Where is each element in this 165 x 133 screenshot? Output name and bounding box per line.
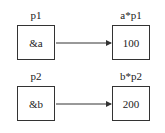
target-box-a: 100 xyxy=(112,25,150,60)
pointer-box-p1: &a xyxy=(17,25,55,60)
pointer-label-p2: p2 xyxy=(11,70,61,82)
target-box-b: 200 xyxy=(112,86,150,121)
target-label-a: a*p1 xyxy=(106,9,156,21)
pointer-label-p1: p1 xyxy=(11,9,61,21)
target-label-b: b*p2 xyxy=(106,70,156,82)
pointer-box-p2: &b xyxy=(17,86,55,121)
